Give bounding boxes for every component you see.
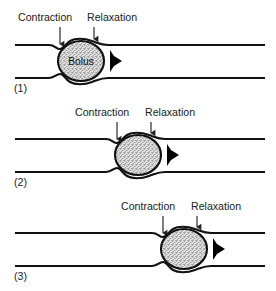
- peristalsis-diagram: Contraction Relaxation Bolus (1) Contrac…: [0, 0, 276, 291]
- panel-2-contraction-label: Contraction: [75, 106, 129, 118]
- panel-2-flow-arrow: [167, 144, 179, 166]
- panel-2: Contraction Relaxation (2): [14, 106, 265, 188]
- panel-1-relaxation-label: Relaxation: [87, 11, 137, 23]
- panel-3-number: (3): [14, 270, 27, 282]
- panel-3-upper-wall: [15, 227, 265, 237]
- panel-3-contraction-label: Contraction: [121, 200, 175, 212]
- panel-2-bolus: [115, 135, 161, 175]
- panel-1-upper-wall: [15, 39, 265, 49]
- panel-1-flow-arrow: [110, 50, 122, 72]
- panel-3: Contraction Relaxation (3): [14, 200, 265, 282]
- panel-1-bolus-label: Bolus: [68, 56, 93, 67]
- panel-1-number: (1): [14, 82, 27, 94]
- panel-1: Contraction Relaxation Bolus (1): [14, 11, 265, 94]
- panel-2-relaxation-label: Relaxation: [145, 106, 195, 118]
- panel-3-flow-arrow: [213, 238, 225, 260]
- peristalsis-svg: Contraction Relaxation Bolus (1) Contrac…: [0, 0, 276, 291]
- panel-1-contraction-label: Contraction: [18, 11, 72, 23]
- panel-3-relaxation-label: Relaxation: [191, 200, 241, 212]
- panel-2-number: (2): [14, 176, 27, 188]
- panel-3-lower-wall: [15, 262, 265, 272]
- panel-1-lower-wall: [15, 74, 265, 84]
- panel-3-bolus: [161, 229, 207, 269]
